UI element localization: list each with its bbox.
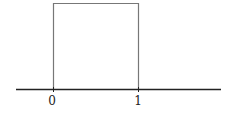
uniform-box-diagram: 0 1 [0, 0, 232, 114]
tick-label-0: 0 [48, 94, 56, 108]
box-outline [54, 4, 139, 90]
tick-label-1: 1 [134, 94, 142, 108]
